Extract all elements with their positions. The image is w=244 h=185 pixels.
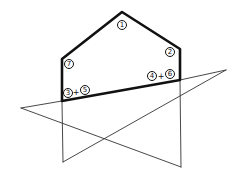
thin-line-right-diagonal [63, 70, 226, 162]
svg-text:7: 7 [67, 60, 71, 68]
vertex-label-7: 7 [65, 60, 74, 69]
vertex-label-1: 1 [118, 21, 127, 30]
svg-text:+: + [158, 72, 165, 81]
svg-text:1: 1 [120, 21, 124, 29]
thin-line-right-arm [180, 70, 226, 80]
vertex-label-2: 2 [166, 48, 175, 57]
svg-text:+: + [73, 88, 80, 97]
pentagon-diagram: 1 2 7 3 + 5 4 + 6 [0, 0, 244, 185]
svg-text:2: 2 [168, 48, 172, 56]
thin-line-left-vertical [62, 101, 63, 162]
svg-text:5: 5 [83, 86, 87, 94]
svg-text:6: 6 [168, 70, 173, 78]
thin-line-left-arm [21, 101, 62, 108]
svg-text:3: 3 [66, 89, 70, 97]
thin-line-right-vertical [180, 80, 181, 167]
thin-line-left-diagonal [21, 108, 181, 167]
vertex-label-4-plus-6: 4 + 6 [148, 70, 175, 81]
svg-text:4: 4 [150, 72, 155, 80]
